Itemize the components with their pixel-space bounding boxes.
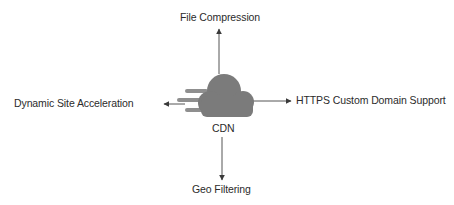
branch-label-right: HTTPS Custom Domain Support (296, 94, 446, 106)
center-label: CDN (212, 122, 234, 134)
cloud-icon (198, 74, 254, 117)
branch-label-down: Geo Filtering (192, 183, 251, 195)
branch-label-left: Dynamic Site Acceleration (14, 97, 133, 109)
branch-label-up: File Compression (180, 11, 260, 23)
